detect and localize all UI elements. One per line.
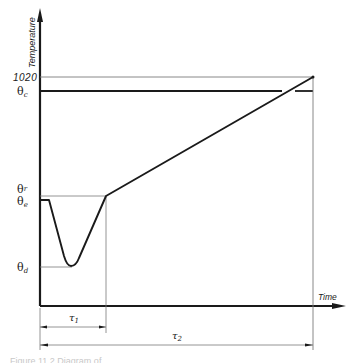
temperature-time-diagram: Temperature Time 1020 θc θr θe θd τ1 (0, 0, 356, 363)
tau1-label: τ1 (69, 312, 79, 325)
tau2-right-arrow-icon (305, 344, 313, 347)
tau1-left-arrow-icon (40, 326, 47, 329)
curve-end-point (312, 76, 315, 79)
y-axis-label: Temperature (27, 17, 37, 68)
tau1-right-arrow-icon (99, 326, 106, 329)
temperature-curve (40, 77, 313, 266)
theta-d-label: θd (17, 261, 29, 275)
tau2-left-arrow-icon (40, 344, 48, 347)
theta-e-label: θe (17, 195, 28, 209)
tau2-dimension (40, 344, 313, 347)
tau2-label: τ2 (172, 330, 183, 343)
x-axis (40, 303, 346, 309)
y-axis (37, 8, 43, 306)
level-1020-label: 1020 (13, 72, 37, 83)
x-axis-label: Time (318, 292, 337, 302)
theta-c-label: θc (17, 85, 28, 99)
figure-caption: Figure 11.2 Diagram of ... (10, 353, 111, 363)
y-axis-arrow-icon (37, 8, 43, 22)
x-axis-arrow-icon (332, 303, 346, 309)
